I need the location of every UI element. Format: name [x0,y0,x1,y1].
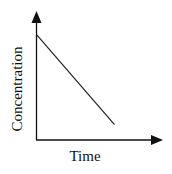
y-axis-label: Concentration [9,46,25,131]
x-axis-label: Time [69,148,100,164]
x-axis-arrow-icon [151,135,163,145]
y-axis-arrow-icon [32,11,42,23]
chart: Time Concentration [0,0,172,174]
concentration-line [37,35,115,125]
